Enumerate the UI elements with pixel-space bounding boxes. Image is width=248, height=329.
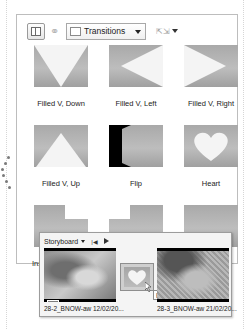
resize-button[interactable]: ⇱⇲: [156, 27, 178, 36]
storyboard-toolbar: Storyboard |◀: [44, 236, 109, 246]
clip-2-name: 28-3_BNOW-aw 21/02/20...: [157, 305, 237, 312]
storyboard-popup: Storyboard |◀ ★ 28-2_BNOW-aw 12/02/20...…: [39, 232, 232, 317]
transition-item[interactable]: Filled V, Left: [109, 45, 163, 87]
thumb-v-up: [34, 125, 88, 167]
skip-back-icon[interactable]: |◀: [91, 238, 98, 245]
guide-line-right: [243, 0, 244, 329]
mouse-cursor-icon: [145, 282, 153, 292]
storyboard-mode-dropdown[interactable]: Storyboard: [44, 238, 78, 245]
clip-1[interactable]: ★: [44, 248, 116, 302]
transition-item[interactable]: Flip: [109, 125, 163, 167]
transition-label: Flip: [97, 179, 175, 188]
panel-layout-icon: [31, 27, 41, 36]
transition-item[interactable]: Heart: [184, 125, 238, 167]
transition-label: Filled V, Right: [172, 99, 248, 108]
play-icon[interactable]: [104, 238, 109, 244]
transition-item[interactable]: Filled V, Up: [34, 125, 88, 167]
transition-item[interactable]: Filled V, Down: [34, 45, 88, 87]
transition-label: Heart: [172, 179, 248, 188]
thumb-v-left: [109, 45, 163, 87]
thumb-flip: [109, 125, 163, 167]
chevron-down-icon: [172, 29, 178, 33]
resize-icon: ⇱⇲: [156, 27, 170, 36]
clip-2-thumbnail: [157, 251, 229, 299]
thumb-heart: [184, 125, 238, 167]
thumb-v-right: [184, 45, 238, 87]
clip-1-thumbnail: [44, 251, 116, 299]
transitions-panel: ⚭ Transitions ⇱⇲ Filled V, Down: [16, 14, 238, 264]
layout-button[interactable]: [27, 23, 45, 40]
thumb-v-down: [34, 45, 88, 87]
transition-label: Filled V, Left: [97, 99, 175, 108]
resize-grip[interactable]: [0, 156, 12, 196]
chevron-down-icon[interactable]: [81, 240, 85, 243]
clip-1-name: 28-2_BNOW-aw 12/02/20...: [44, 305, 124, 312]
transition-label: Filled V, Down: [22, 99, 100, 108]
collection-combo-value: Transitions: [84, 26, 125, 36]
toolbar: ⚭ Transitions ⇱⇲: [27, 21, 178, 41]
transition-item[interactable]: Filled V, Right: [184, 45, 238, 87]
star-icon: ★: [47, 300, 59, 302]
collection-combo[interactable]: Transitions: [66, 23, 146, 40]
transition-icon: [70, 27, 81, 36]
chevron-down-icon: [135, 30, 141, 34]
link-icon[interactable]: ⚭: [50, 25, 62, 37]
transition-label: Filled V, Up: [22, 179, 100, 188]
clip-2[interactable]: [157, 248, 229, 302]
transitions-window: ⚭ Transitions ⇱⇲ Filled V, Down: [0, 0, 248, 329]
